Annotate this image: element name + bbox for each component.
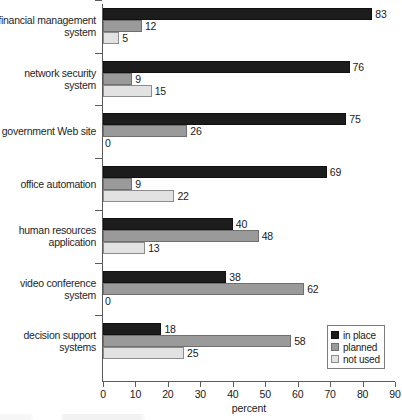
category-label-line: financial management bbox=[0, 14, 96, 26]
bar-value-label: 13 bbox=[148, 242, 159, 254]
legend-item-label: planned bbox=[343, 342, 377, 353]
bar bbox=[103, 218, 233, 230]
bar-value-label: 75 bbox=[349, 113, 360, 125]
category-separator-tick bbox=[95, 105, 102, 106]
x-axis-tick-label: 60 bbox=[292, 388, 303, 400]
category-separator-tick bbox=[95, 53, 102, 54]
category-label: office automation bbox=[0, 178, 96, 190]
x-axis-tick bbox=[135, 382, 136, 387]
bar-value-label: 58 bbox=[294, 335, 305, 347]
bar bbox=[103, 178, 132, 190]
bar bbox=[103, 347, 184, 359]
category-separator-tick bbox=[95, 158, 102, 159]
bar bbox=[103, 73, 132, 85]
bar bbox=[103, 32, 119, 44]
category-label-line: system bbox=[0, 26, 96, 38]
legend-item: planned bbox=[331, 341, 380, 353]
x-axis-tick bbox=[233, 382, 234, 387]
bar-value-label: 18 bbox=[164, 323, 175, 335]
legend-item: not used bbox=[331, 353, 380, 365]
x-axis-tick bbox=[265, 382, 266, 387]
bar bbox=[103, 8, 372, 20]
x-axis-tick bbox=[103, 382, 104, 387]
legend-item-label: in place bbox=[343, 330, 376, 341]
black-swatch-icon bbox=[331, 331, 339, 339]
category-separator-tick bbox=[95, 0, 102, 1]
bar-value-label: 25 bbox=[187, 347, 198, 359]
bar-value-label: 26 bbox=[190, 125, 201, 137]
x-axis-tick-label: 20 bbox=[162, 388, 173, 400]
x-axis-tick-label: 40 bbox=[227, 388, 238, 400]
bar-value-label: 22 bbox=[177, 190, 188, 202]
bar bbox=[103, 166, 327, 178]
bar bbox=[103, 283, 304, 295]
bar-value-label: 83 bbox=[375, 8, 386, 20]
bar-value-label: 0 bbox=[105, 295, 111, 307]
category-label-line: decision support bbox=[0, 329, 96, 341]
category-label-line: system bbox=[0, 289, 96, 301]
category-separator-tick bbox=[95, 315, 102, 316]
bar bbox=[103, 335, 291, 347]
bar-value-label: 9 bbox=[135, 73, 141, 85]
bar bbox=[103, 242, 145, 254]
category-separator-tick bbox=[95, 210, 102, 211]
category-label: financial managementsystem bbox=[0, 14, 96, 38]
bar-value-label: 9 bbox=[135, 178, 141, 190]
bar-value-label: 48 bbox=[262, 230, 273, 242]
bar-value-label: 15 bbox=[155, 85, 166, 97]
bar bbox=[103, 61, 350, 73]
x-axis-tick bbox=[168, 382, 169, 387]
x-axis-tick-label: 0 bbox=[100, 388, 106, 400]
x-axis-title: percent bbox=[103, 402, 395, 414]
x-axis-tick-label: 50 bbox=[260, 388, 271, 400]
bar-value-label: 38 bbox=[229, 271, 240, 283]
x-axis-tick bbox=[330, 382, 331, 387]
bar-value-label: 0 bbox=[105, 137, 111, 149]
category-label: human resourcesapplication bbox=[0, 224, 96, 248]
x-axis-line bbox=[102, 381, 395, 382]
x-axis-tick-label: 10 bbox=[130, 388, 141, 400]
bar bbox=[103, 125, 187, 137]
x-axis-tick bbox=[298, 382, 299, 387]
bar-value-label: 62 bbox=[307, 283, 318, 295]
bar bbox=[103, 85, 152, 97]
category-label-line: human resources bbox=[0, 224, 96, 236]
chart-legend: in place planned not used bbox=[327, 325, 385, 369]
x-axis-tick bbox=[395, 382, 396, 387]
bar bbox=[103, 230, 259, 242]
bar bbox=[103, 20, 142, 32]
bar-value-label: 40 bbox=[236, 218, 247, 230]
x-axis-tick-label: 70 bbox=[324, 388, 335, 400]
category-label-line: system bbox=[0, 79, 96, 91]
bar-value-label: 69 bbox=[330, 166, 341, 178]
category-label: network securitysystem bbox=[0, 67, 96, 91]
bar-value-label: 12 bbox=[145, 20, 156, 32]
category-label-line: government Web site bbox=[0, 125, 96, 137]
category-label: government Web site bbox=[0, 125, 96, 137]
bar-value-label: 5 bbox=[122, 32, 128, 44]
light-gray-swatch-icon bbox=[331, 355, 339, 363]
category-label-line: network security bbox=[0, 67, 96, 79]
legend-item: in place bbox=[331, 329, 380, 341]
x-axis-tick-label: 30 bbox=[195, 388, 206, 400]
category-separator-tick bbox=[95, 263, 102, 264]
x-axis-tick-label: 80 bbox=[357, 388, 368, 400]
category-label-line: video conference bbox=[0, 277, 96, 289]
scan-artifact bbox=[0, 414, 402, 420]
x-axis-tick bbox=[200, 382, 201, 387]
bar bbox=[103, 113, 346, 125]
gray-swatch-icon bbox=[331, 343, 339, 351]
category-label: video conferencesystem bbox=[0, 277, 96, 301]
horizontal-bar-chart: financial managementsystem83125network s… bbox=[0, 0, 402, 420]
category-label-line: office automation bbox=[0, 178, 96, 190]
category-label-line: application bbox=[0, 236, 96, 248]
bar-value-label: 76 bbox=[353, 61, 364, 73]
x-axis-tick-label: 90 bbox=[389, 388, 400, 400]
x-axis-tick bbox=[363, 382, 364, 387]
legend-item-label: not used bbox=[343, 354, 380, 365]
category-label-line: systems bbox=[0, 341, 96, 353]
bar bbox=[103, 323, 161, 335]
bar bbox=[103, 271, 226, 283]
bar bbox=[103, 190, 174, 202]
category-label: decision supportsystems bbox=[0, 329, 96, 353]
